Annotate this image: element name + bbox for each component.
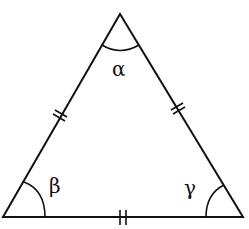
angle-arc-gamma [206,185,224,217]
angle-label-alpha: α [112,57,126,81]
triangle-outline [3,14,243,217]
angle-label-gamma: γ [184,176,196,200]
triangle-diagram: α β γ [0,0,249,229]
angle-label-beta: β [49,174,61,198]
angle-arc-beta [24,182,45,217]
angle-arc-alpha [102,45,139,51]
